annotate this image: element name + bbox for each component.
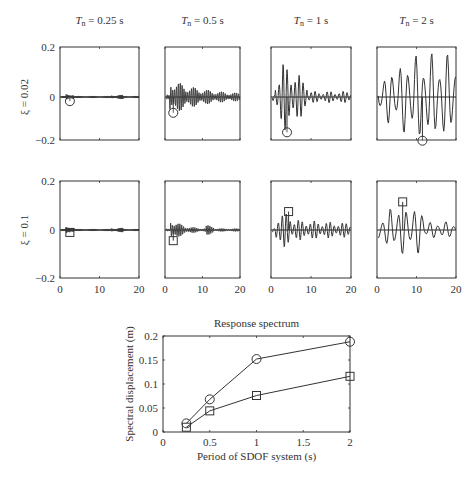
- x-tick-label: 20: [134, 283, 146, 295]
- peak-circle-marker: [169, 108, 178, 117]
- response-spectrum-chart: Response spectrum00.511.5200.050.10.150.…: [123, 317, 355, 463]
- spectrum-x-tick-label: 1.5: [296, 436, 310, 448]
- spectrum-y-tick-label: 0: [153, 426, 159, 438]
- time-history-panel-r1-c3: 01020: [374, 181, 462, 295]
- time-history-panel-r1-c1: 01020: [162, 181, 246, 295]
- response-trace: [166, 83, 240, 110]
- time-history-panel-r1-c2: 01020: [268, 181, 357, 295]
- row-label: ξ = 0.1: [18, 215, 31, 245]
- peak-circle-marker: [65, 97, 74, 106]
- spectrum-series-line: [186, 376, 350, 427]
- column-title: Tn = 1 s: [294, 14, 328, 28]
- x-tick-label: 10: [411, 283, 423, 295]
- x-tick-label: 20: [235, 283, 247, 295]
- spectrum-title: Response spectrum: [214, 317, 300, 329]
- time-history-panel-r0-c3: [377, 47, 456, 145]
- column-title: Tn = 0.25 s: [75, 14, 123, 28]
- figure: Tn = 0.25 sTn = 0.5 sTn = 1 sTn = 2 sξ =…: [0, 0, 476, 481]
- x-tick-label: 10: [94, 283, 106, 295]
- y-tick-label: 0: [50, 224, 56, 236]
- row-label: ξ = 0.02: [18, 79, 31, 115]
- column-title: Tn = 0.5 s: [181, 14, 224, 28]
- x-tick-label: 10: [197, 283, 209, 295]
- x-tick-label: 10: [306, 283, 318, 295]
- y-tick-label: 0.2: [41, 175, 55, 187]
- response-trace: [166, 223, 240, 236]
- time-history-panel-r0-c1: [165, 47, 240, 140]
- x-tick-label: 0: [374, 283, 380, 295]
- spectrum-y-tick-label: 0.1: [144, 378, 158, 390]
- spectrum-x-tick-label: 2: [347, 436, 353, 448]
- time-history-panel-r0-c0: 0.20−0.2: [35, 41, 139, 146]
- spectrum-x-tick-label: 0: [160, 436, 166, 448]
- peak-circle-marker: [418, 136, 427, 145]
- y-tick-label: 0.2: [41, 41, 55, 53]
- column-title: Tn = 2 s: [399, 14, 433, 28]
- x-tick-label: 0: [162, 283, 168, 295]
- peak-circle-marker: [283, 128, 292, 137]
- y-tick-label: −0.2: [35, 134, 55, 146]
- time-history-panel-r1-c0: 0.20−0.201020: [35, 175, 145, 295]
- response-trace: [378, 54, 455, 134]
- spectrum-series-line: [186, 342, 350, 424]
- x-tick-label: 0: [268, 283, 274, 295]
- spectrum-x-tick-label: 1: [254, 436, 260, 448]
- spectrum-y-tick-label: 0.15: [139, 354, 159, 366]
- response-trace: [378, 209, 455, 253]
- x-tick-label: 20: [346, 283, 358, 295]
- spectrum-x-axis-label: Period of SDOF system (s): [197, 450, 317, 463]
- time-history-panel-r0-c2: [271, 47, 351, 140]
- spectrum-y-axis-label: Spectral displacement (m): [123, 326, 136, 442]
- y-tick-label: 0: [50, 91, 56, 103]
- x-tick-label: 0: [57, 283, 63, 295]
- x-tick-label: 20: [451, 283, 463, 295]
- y-tick-label: −0.2: [35, 272, 55, 284]
- spectrum-y-tick-label: 0.05: [139, 402, 159, 414]
- spectrum-y-tick-label: 0.2: [144, 330, 158, 342]
- axes-frame: [60, 47, 139, 140]
- time-history-grid: Tn = 0.25 sTn = 0.5 sTn = 1 sTn = 2 sξ =…: [18, 14, 462, 295]
- spectrum-x-tick-label: 0.5: [203, 436, 217, 448]
- spectrum-axes-frame: [163, 336, 350, 432]
